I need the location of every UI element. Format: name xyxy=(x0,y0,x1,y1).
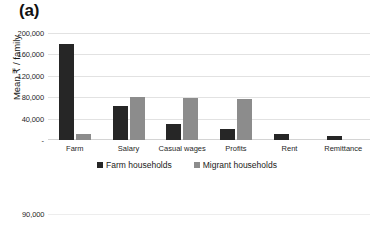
x-axis-tick-label: Farm xyxy=(66,144,84,153)
bar-farm xyxy=(59,44,74,140)
bar-migrant xyxy=(130,97,145,140)
bar-farm xyxy=(274,134,289,140)
bar-farm xyxy=(113,106,128,140)
y-axis-tick-label: 40,000 xyxy=(22,114,44,123)
legend-item[interactable]: Migrant households xyxy=(194,160,277,170)
bar-migrant xyxy=(183,98,198,140)
y-axis-tick-label: 80,000 xyxy=(22,93,44,102)
y-axis-tick-label: 160,000 xyxy=(18,50,44,59)
bar-migrant xyxy=(76,134,91,140)
panel-a-label: (a) xyxy=(19,1,39,21)
legend-swatch-icon xyxy=(97,162,103,168)
legend-swatch-icon xyxy=(194,162,200,168)
bar-farm xyxy=(220,129,235,140)
panel-b-gridline xyxy=(48,214,370,215)
x-axis-tick-label: Salary xyxy=(118,144,139,153)
legend-item[interactable]: Farm households xyxy=(97,160,172,170)
bar-group: Remittance xyxy=(316,33,370,140)
bar-group: Farm xyxy=(48,33,102,140)
y-axis-tick-label: - xyxy=(42,136,44,145)
bar-group: Profits xyxy=(209,33,263,140)
x-axis-tick-label: Profits xyxy=(225,144,246,153)
x-axis-tick-label: Casual wages xyxy=(159,144,206,153)
panel-b-chart: (b) 90,000 xyxy=(0,182,374,226)
y-axis-tick-label: 120,000 xyxy=(18,71,44,80)
panel-b-y-tick-label: 90,000 xyxy=(22,210,44,219)
chart-legend: Farm householdsMigrant households xyxy=(0,160,374,170)
x-axis-tick-label: Remittance xyxy=(324,144,362,153)
legend-label: Farm households xyxy=(106,160,172,170)
panel-a-chart: (a) Mean ₹ / family -40,00080,000120,000… xyxy=(0,0,374,182)
bar-farm xyxy=(327,136,342,140)
y-axis-tick-label: 200,000 xyxy=(18,29,44,38)
bar-group: Casual wages xyxy=(155,33,209,140)
legend-label: Migrant households xyxy=(203,160,277,170)
bar-groups: FarmSalaryCasual wagesProfitsRentRemitta… xyxy=(48,33,370,140)
bar-group: Rent xyxy=(263,33,317,140)
x-axis-tick-label: Rent xyxy=(282,144,298,153)
bar-group: Salary xyxy=(102,33,156,140)
plot-area: -40,00080,000120,000160,000200,000 FarmS… xyxy=(48,33,370,140)
bar-migrant xyxy=(237,99,252,140)
bar-farm xyxy=(166,124,181,140)
